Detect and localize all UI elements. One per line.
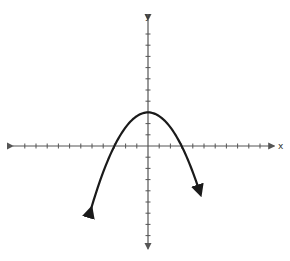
- y-axis-label: y: [145, 11, 151, 21]
- coordinate-plane: x y: [0, 0, 290, 261]
- x-axis-label: x: [278, 141, 284, 151]
- parabola-curve: [91, 112, 200, 209]
- axis-ticks: [25, 34, 260, 236]
